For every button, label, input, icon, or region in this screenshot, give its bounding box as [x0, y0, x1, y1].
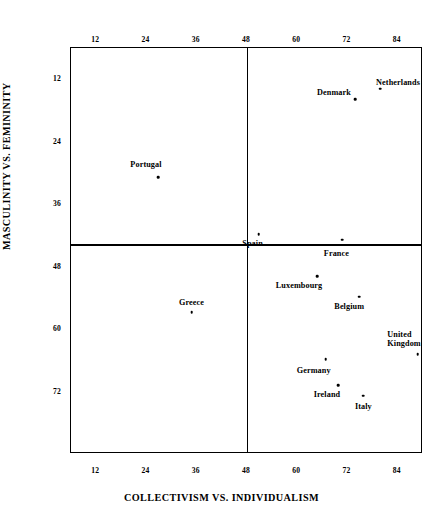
x-tick-label-top: 84 — [393, 35, 401, 44]
data-point-label: Greece — [179, 299, 204, 308]
x-tick-label-top: 72 — [343, 35, 351, 44]
data-point-label: Denmark — [317, 88, 351, 97]
data-point-label: Portugal — [130, 161, 161, 170]
data-point-label: Italy — [355, 402, 372, 411]
data-point[interactable] — [417, 353, 420, 356]
data-point-label: France — [324, 249, 349, 258]
x-tick-label-bottom: 72 — [343, 466, 351, 475]
x-tick-label-bottom: 24 — [141, 466, 149, 475]
data-point[interactable] — [379, 87, 382, 90]
data-point[interactable] — [337, 384, 340, 387]
data-point[interactable] — [257, 233, 260, 236]
y-axis-title-text: MASCULINITY VS. FEMININITY — [1, 83, 12, 250]
x-tick-label-top: 48 — [242, 35, 250, 44]
data-point-label: Ireland — [314, 391, 340, 400]
data-point[interactable] — [358, 296, 361, 299]
x-tick-label-bottom: 48 — [242, 466, 250, 475]
data-point-label-line2: Kingdom — [387, 339, 420, 348]
y-axis-title: MASCULINITY VS. FEMININITY — [1, 83, 12, 250]
x-tick-label-top: 36 — [192, 35, 200, 44]
data-point[interactable] — [362, 394, 365, 397]
data-point-label: Spain — [242, 240, 263, 249]
data-point-label: Belgium — [334, 302, 364, 311]
data-point[interactable] — [354, 98, 357, 101]
data-point-label: UnitedKingdom — [387, 330, 420, 348]
data-point[interactable] — [316, 275, 319, 278]
data-point-label: Germany — [297, 367, 331, 376]
data-point-label: Luxembourg — [276, 281, 323, 290]
data-point[interactable] — [324, 358, 327, 361]
y-tick-label: 36 — [53, 199, 61, 208]
x-tick-label-top: 24 — [141, 35, 149, 44]
x-tick-label-bottom: 12 — [91, 466, 99, 475]
y-tick-label: 72 — [53, 386, 61, 395]
data-point[interactable] — [341, 238, 344, 241]
scatter-chart: 1212242436364848606072728484122436486072… — [0, 0, 443, 532]
data-point-label: Netherlands — [376, 78, 420, 87]
x-axis-title: COLLECTIVISM VS. INDIVIDUALISM — [0, 492, 443, 503]
quadrant-divider-vertical — [247, 47, 248, 453]
x-tick-label-bottom: 60 — [292, 466, 300, 475]
data-point[interactable] — [190, 311, 193, 314]
x-tick-label-bottom: 84 — [393, 466, 401, 475]
data-point[interactable] — [157, 176, 160, 179]
x-tick-label-top: 60 — [292, 35, 300, 44]
data-point-label-line1: United — [387, 330, 420, 339]
y-tick-label: 12 — [53, 74, 61, 83]
y-tick-label: 60 — [53, 324, 61, 333]
y-tick-label: 24 — [53, 136, 61, 145]
x-tick-label-bottom: 36 — [192, 466, 200, 475]
x-tick-label-top: 12 — [91, 35, 99, 44]
y-tick-label: 48 — [53, 261, 61, 270]
